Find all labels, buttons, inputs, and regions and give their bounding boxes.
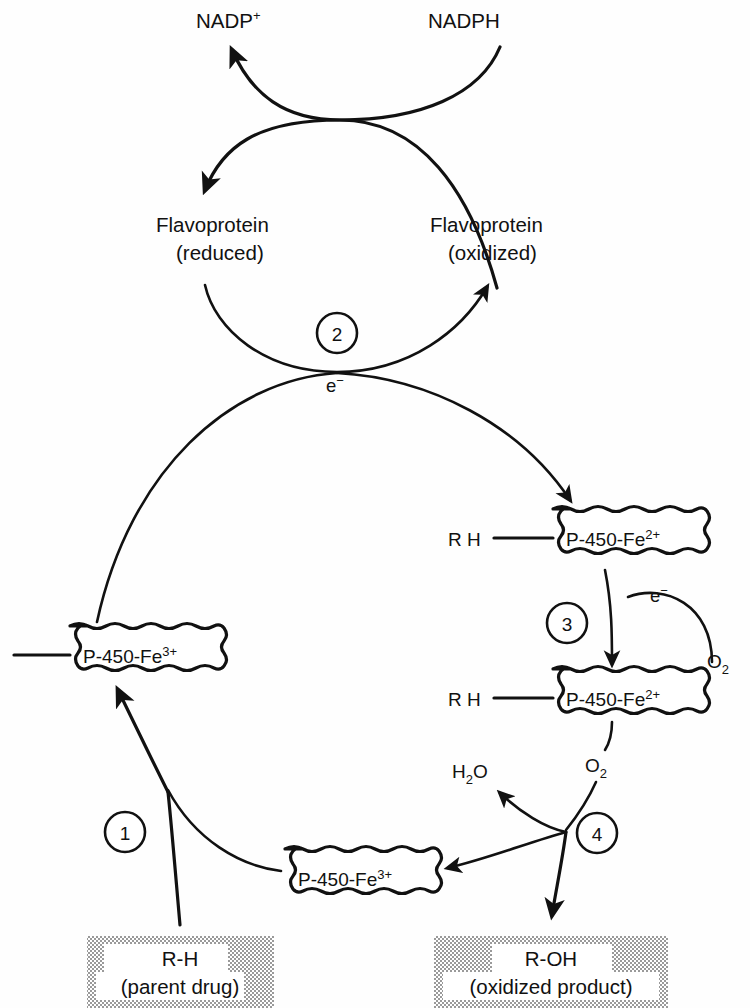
flavoprotein-oxidized-line1: Flavoprotein <box>430 213 543 236</box>
step-2-number: 2 <box>332 324 343 345</box>
arc-cycle-to-complex-fe2-top <box>337 373 570 500</box>
electron-step3-label: e− <box>650 583 668 606</box>
line-substrate-into-cycle <box>168 792 180 925</box>
product-line2: (oxidized product) <box>470 975 633 998</box>
nadp-oxidized-label: NADP+ <box>196 8 261 32</box>
flavoprotein-reduced-line2: (reduced) <box>176 241 264 264</box>
step-badge-4: 4 <box>577 813 617 853</box>
complex-fe3-bottom: P-450-Fe3+ <box>285 847 442 894</box>
substrate-line1: R-H <box>162 947 198 970</box>
flavoprotein-reduced-line1: Flavoprotein <box>156 213 269 236</box>
complex-fe2-oxy: R H P-450-Fe2+ <box>448 667 710 714</box>
complex-fe3-left: R H P-450-Fe3+ <box>0 624 227 671</box>
step-3-number: 3 <box>562 614 573 635</box>
line-oxy-to-o2-label <box>605 722 612 750</box>
arrow-nadph-to-flavoprotein-reduced <box>205 47 500 190</box>
arrow-step1-to-complex-fe3-left <box>118 690 168 792</box>
arrow-to-product <box>552 832 566 915</box>
p450-cycle-diagram: R H P-450-Fe2+ R H P-450-Fe2+ R H P-450-… <box>0 0 750 1008</box>
complex-fe3-left-substrate: R H <box>0 646 1 667</box>
substrate-line2: (parent drug) <box>121 975 240 998</box>
water-label: H2O <box>452 761 488 787</box>
product-line1: R-OH <box>525 947 577 970</box>
oxygen-bound-label: O2 <box>585 755 607 781</box>
step-badge-1: 1 <box>105 812 145 852</box>
product-box: R-OH (oxidized product) <box>434 936 668 1008</box>
complex-fe2-oxy-substrate: R H <box>448 689 481 710</box>
arrow-to-water <box>500 793 566 832</box>
step-1-number: 1 <box>120 823 131 844</box>
diagram-canvas: R H P-450-Fe2+ R H P-450-Fe2+ R H P-450-… <box>0 0 750 1008</box>
oxygen-free-label: O2 <box>707 651 729 677</box>
arrow-step3-down <box>605 570 612 664</box>
complex-fe2-top-substrate: R H <box>448 529 481 550</box>
substrate-box: R-H (parent drug) <box>87 936 274 1008</box>
electron-cycle-label: e− <box>326 373 344 396</box>
arc-electron-to-oxy-complex <box>628 593 712 662</box>
complex-fe2-top: R H P-450-Fe2+ <box>448 507 710 554</box>
arrow-to-complex-fe3-bottom <box>448 832 566 868</box>
flavoprotein-oxidized-line2: (oxidized) <box>448 241 537 264</box>
step-4-number: 4 <box>592 824 603 845</box>
arc-bottom-to-step1 <box>168 790 281 871</box>
step-badge-3: 3 <box>547 603 587 643</box>
nadph-label: NADPH <box>428 9 500 32</box>
arc-cycle-left <box>97 373 337 622</box>
step-badge-2: 2 <box>317 313 357 353</box>
